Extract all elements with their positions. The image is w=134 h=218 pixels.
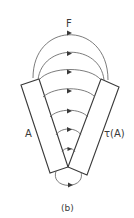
field-arc-second: [38, 52, 104, 80]
field-label-F: F: [66, 18, 72, 29]
inner-field-lines: [43, 89, 95, 153]
diagram-figure-b: F A τ(A) (b): [0, 0, 134, 218]
arrow-icon: [67, 89, 72, 94]
arrow-icon: [68, 147, 73, 151]
right-bar-tau-A: [68, 79, 119, 175]
outer-field-lines: [33, 31, 108, 81]
arrow-icon: [67, 109, 72, 114]
arrow-icon: [67, 127, 72, 132]
arrow-icon: [67, 51, 72, 56]
left-bar-A: [21, 79, 68, 173]
field-arc-outermost: [33, 35, 108, 80]
arrow-icon: [68, 183, 73, 188]
region-label-tau-A: τ(A): [104, 128, 125, 139]
region-label-A: A: [25, 128, 32, 139]
arrow-icon: [67, 70, 72, 75]
figure-caption: (b): [61, 203, 74, 213]
